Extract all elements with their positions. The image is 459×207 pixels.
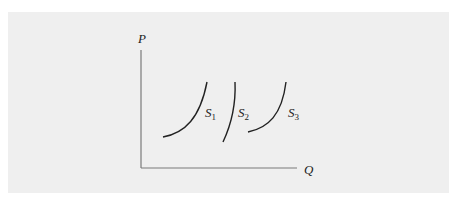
curve-label-s1: S1 bbox=[205, 105, 216, 122]
supply-curve-s3 bbox=[248, 82, 286, 132]
curve-label-s3: S3 bbox=[288, 105, 300, 122]
x-axis-label: Q bbox=[304, 162, 314, 177]
supply-diagram: P Q S1 S2 S3 bbox=[0, 0, 459, 207]
curve-label-s2: S2 bbox=[238, 105, 249, 122]
supply-curve-s1 bbox=[163, 82, 207, 137]
supply-curve-s2 bbox=[223, 82, 235, 142]
y-axis-label: P bbox=[137, 31, 146, 46]
